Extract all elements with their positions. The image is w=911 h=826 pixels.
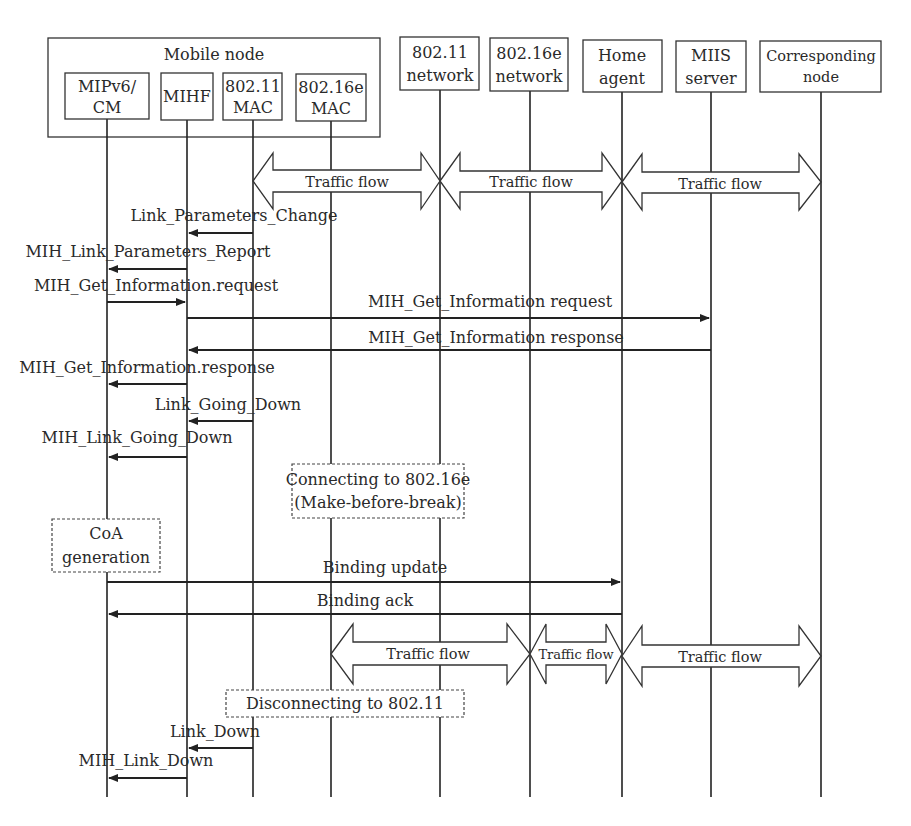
message-label: MIH_Get_Information response: [368, 328, 624, 347]
participant-label: MAC: [311, 99, 351, 118]
note-text: (Make-before-break): [294, 493, 461, 512]
traffic-flow-bottom-3: Traffic flow: [622, 626, 821, 686]
message-label: MIH_Link_Parameters_Report: [25, 242, 271, 261]
participant-802-11-network: 802.11 network: [400, 37, 479, 90]
traffic-flow-top-2: Traffic flow: [440, 153, 622, 209]
sequence-diagram: Mobile node MIPv6/ CM MIHF 802.11 MAC 80…: [0, 0, 911, 826]
participant-label: Corresponding: [766, 48, 876, 64]
traffic-flow-label: Traffic flow: [538, 647, 613, 662]
message-label: Link_Parameters_Change: [130, 206, 337, 225]
mobile-node-title: Mobile node: [164, 45, 265, 64]
message-binding-ack: Binding ack: [109, 591, 622, 614]
participant-802-11-mac: 802.11 MAC: [223, 73, 282, 120]
traffic-flow-label: Traffic flow: [678, 176, 762, 192]
traffic-flow-label: Traffic flow: [678, 649, 762, 665]
participant-mihf: MIHF: [161, 73, 213, 120]
participant-label: MIIS: [691, 46, 731, 65]
participant-label: 802.11: [225, 77, 281, 96]
participant-home-agent: Home agent: [583, 40, 662, 92]
traffic-flow-label: Traffic flow: [489, 174, 573, 190]
participant-corresponding-node: Corresponding node: [760, 41, 881, 92]
note-connecting-80216e: Connecting to 802.16e (Make-before-break…: [286, 464, 471, 518]
traffic-flow-top-3: Traffic flow: [622, 154, 821, 210]
participant-802-16e-mac: 802.16e MAC: [296, 74, 366, 121]
message-label: Binding update: [323, 558, 447, 577]
note-text: Disconnecting to 802.11: [246, 694, 444, 713]
participant-label: 802.16e: [496, 44, 561, 63]
traffic-flow-label: Traffic flow: [305, 174, 389, 190]
participant-label: CM: [93, 98, 122, 117]
message-mih-get-information-response-remote: MIH_Get_Information response: [189, 328, 711, 350]
participant-mipv6: MIPv6/ CM: [65, 73, 149, 119]
note-text: Connecting to 802.16e: [286, 470, 471, 489]
participant-miis-server: MIIS server: [676, 41, 746, 92]
message-label: Binding ack: [317, 591, 414, 610]
traffic-flow-label: Traffic flow: [386, 646, 470, 662]
message-mih-link-down: MIH_Link_Down: [79, 751, 214, 778]
participant-label: agent: [599, 69, 646, 88]
participant-label: server: [685, 69, 737, 88]
message-label: Link_Down: [170, 722, 260, 741]
message-mih-get-information-request-remote: MIH_Get_Information request: [187, 292, 709, 318]
message-label: MIH_Get_Information.request: [34, 276, 279, 295]
message-binding-update: Binding update: [107, 558, 620, 582]
note-disconnecting-80211: Disconnecting to 802.11: [226, 690, 464, 717]
note-text: generation: [62, 548, 150, 567]
participant-label: 802.11: [412, 43, 468, 62]
note-text: CoA: [89, 524, 123, 543]
message-mih-get-information-request-local: MIH_Get_Information.request: [34, 276, 279, 302]
message-label: MIH_Link_Going_Down: [42, 428, 233, 447]
participant-label: 802.16e: [298, 78, 363, 97]
message-link-parameters-change: Link_Parameters_Change: [130, 206, 337, 233]
participant-label: MAC: [233, 98, 273, 117]
message-label: MIH_Get_Information.response: [19, 358, 275, 377]
participant-label: network: [407, 66, 474, 85]
traffic-flow-bottom-2: Traffic flow: [530, 624, 622, 684]
message-mih-link-going-down: MIH_Link_Going_Down: [42, 428, 233, 457]
message-label: MIH_Get_Information request: [368, 292, 613, 311]
participant-label: network: [496, 67, 563, 86]
note-coa-generation: CoA generation: [52, 519, 160, 572]
participant-802-16e-network: 802.16e network: [490, 38, 568, 91]
message-mih-get-information-response-local: MIH_Get_Information.response: [19, 358, 275, 384]
participant-label: Home: [598, 46, 646, 65]
message-label: MIH_Link_Down: [79, 751, 214, 770]
traffic-flow-top-1: Traffic flow: [253, 153, 440, 209]
participant-label: MIPv6/: [78, 77, 137, 96]
message-link-down: Link_Down: [170, 722, 260, 748]
message-link-going-down: Link_Going_Down: [155, 395, 301, 421]
participant-label: node: [803, 69, 839, 85]
message-label: Link_Going_Down: [155, 395, 301, 414]
participant-label: MIHF: [163, 87, 211, 106]
message-mih-link-parameters-report: MIH_Link_Parameters_Report: [25, 242, 271, 269]
traffic-flow-bottom-1: Traffic flow: [331, 624, 530, 684]
